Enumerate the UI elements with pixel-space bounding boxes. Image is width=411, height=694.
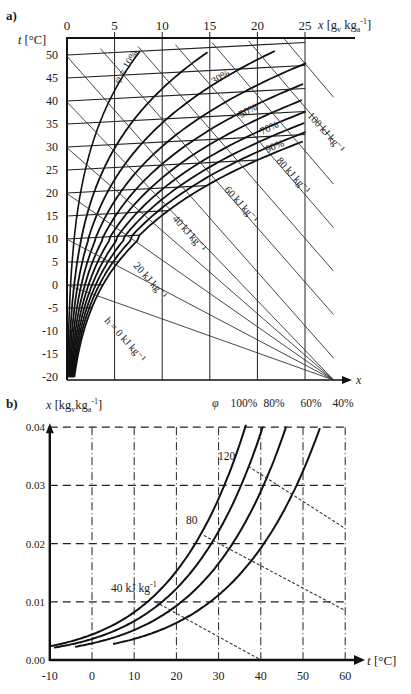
y-tick-label: 0.02 [26,538,45,550]
x-tick-label: 60 [339,669,351,683]
enthalpy-line-50 [67,56,334,358]
y-tick-label: 45 [46,71,58,85]
y-axis-title: t [°C] [18,33,46,47]
h-label-60: 60 kJ kg⁻¹ [223,184,261,225]
x-axis-arrow-icon [342,376,352,384]
y-tick-label: 50 [46,48,58,62]
x-axis-title: x [gv kga-1] [317,17,371,34]
y-tick-label: 0.03 [26,479,46,491]
psychrometric-figure: x0510152025x [gv kga-1]a)t [°C]504540353… [0,0,411,694]
chart-b-humidity-temperature: b)x [kgvkga-1]φ100%80%60%40%0.000.010.02… [6,396,396,683]
y-tick-label: -5 [48,301,58,315]
x-tick-label: 10 [156,18,169,33]
enthalpy-label-120: 120 [218,450,236,462]
y-tick-label: 40 [46,94,58,108]
enthalpy-line-0 [67,285,334,380]
x-tick-label: -10 [42,669,58,683]
x-axis-end-label: x [355,373,362,387]
x-tick-label: 10 [128,669,140,683]
y-tick-label: 25 [46,163,58,177]
panel-b-label: b) [6,396,18,411]
x-tick-label: 20 [170,669,182,683]
rh-curve-60% [75,427,286,647]
panel-a-label: a) [6,8,17,23]
rh-label-50: 50% [237,101,259,120]
y-tick-label: -15 [42,347,58,361]
enthalpy-line-10 [67,239,334,380]
x-tick-label: 15 [203,18,216,33]
rh-legend-40%: 40% [332,397,354,409]
x-tick-label: 0 [89,669,95,683]
h-label-20: 20 kJ kg⁻¹ [132,260,170,301]
y-tick-label: 10 [46,232,58,246]
y-tick-label: 15 [46,209,58,223]
x-tick-label: 20 [251,18,264,33]
y-tick-label: 30 [46,140,58,154]
x-tick-label: 50 [297,669,309,683]
y-tick-label: 0.04 [26,421,46,433]
h-label-40: 40 kJ kg⁻¹ [171,213,209,254]
x-tick-label: 5 [111,18,118,33]
enthalpy-line-20 [67,194,334,380]
x-tick-label: 25 [299,18,312,33]
enthalpy-line-80 [204,535,345,610]
enthalpy-label-40: 40 kJ kg-1 [111,580,157,595]
chart-a-mollier-diagram: x0510152025x [gv kga-1]a)t [°C]504540353… [6,8,371,387]
y-tick-label: -10 [42,324,58,338]
y-tick-label: 35 [46,117,58,131]
y-tick-label: 0.00 [26,654,46,666]
enthalpy-line-120 [248,466,345,528]
h-label-100: 100 kJ kg⁻¹ [306,110,348,155]
rh-legend-100%: 100% [231,397,258,409]
y-axis-title: x [kgvkga-1] [45,397,102,414]
y-axis-arrow-icon [46,423,54,433]
x-tick-label: 30 [213,669,225,683]
h-label-80: 80 kJ kg⁻¹ [275,155,313,196]
y-tick-label: 0 [52,278,58,292]
rh-legend-80%: 80% [263,397,285,409]
y-tick-label: 0.01 [26,596,45,608]
x-axis-title: t [°C] [367,653,396,668]
rh-legend-60%: 60% [300,397,322,409]
y-tick-label: 5 [52,255,58,269]
enthalpy-label-80: 80 [186,514,198,526]
x-tick-label: 40 [255,669,267,683]
y-tick-label: 20 [46,186,58,200]
h-label-0: h = 0 kJ kg⁻¹ [103,315,149,364]
y-tick-label: -20 [42,370,58,384]
phi-legend-symbol: φ [212,396,219,410]
x-axis-arrow-icon [354,655,365,665]
x-tick-label: 0 [64,18,71,33]
